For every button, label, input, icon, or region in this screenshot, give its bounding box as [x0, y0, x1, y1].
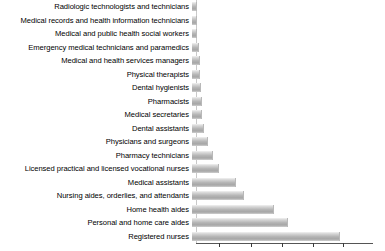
bar[interactable]: [192, 56, 200, 65]
axis-tick: [313, 243, 314, 247]
bar[interactable]: [192, 97, 202, 106]
category-label: Physicians and surgeons: [0, 137, 192, 146]
category-label: Medical and public health social workers: [0, 29, 192, 38]
bar[interactable]: [192, 164, 219, 173]
bar-cell: [192, 81, 385, 95]
bar-cell: [192, 135, 385, 149]
category-label: Medical records and health information t…: [0, 16, 192, 25]
axis-tick: [219, 243, 220, 247]
chart-row: Dental assistants: [0, 122, 385, 136]
bar[interactable]: [192, 29, 197, 38]
bar-cell: [192, 27, 385, 41]
chart-row: Medical assistants: [0, 176, 385, 190]
horizontal-bar-chart: Radiologic technologists and technicians…: [0, 0, 385, 251]
chart-row: Medical records and health information t…: [0, 14, 385, 28]
bar[interactable]: [192, 218, 288, 227]
chart-row: Licensed practical and licensed vocation…: [0, 162, 385, 176]
bar-cell: [192, 230, 385, 244]
bar-cell: [192, 122, 385, 136]
bar-rows-container: Radiologic technologists and technicians…: [0, 0, 385, 243]
chart-row: Medical and public health social workers: [0, 27, 385, 41]
category-label: Pharmacists: [0, 97, 192, 106]
chart-row: Dental hygienists: [0, 81, 385, 95]
bar-cell: [192, 216, 385, 230]
bar-cell: [192, 203, 385, 217]
bar[interactable]: [192, 151, 213, 160]
bar-cell: [192, 189, 385, 203]
chart-row: Pharmacists: [0, 95, 385, 109]
bar-cell: [192, 0, 385, 14]
bar-cell: [192, 162, 385, 176]
chart-row: Pharmacy technicians: [0, 149, 385, 163]
category-label: Nursing aides, orderlies, and attendants: [0, 191, 192, 200]
chart-row: Home health aides: [0, 203, 385, 217]
bar[interactable]: [192, 232, 340, 241]
axis-line: [196, 243, 373, 244]
chart-row: Medical and health services managers: [0, 54, 385, 68]
chart-row: Emergency medical technicians and parame…: [0, 41, 385, 55]
axis-tick: [282, 243, 283, 247]
category-label: Medical secretaries: [0, 110, 192, 119]
axis-tick: [251, 243, 252, 247]
bar-cell: [192, 176, 385, 190]
category-label: Medical assistants: [0, 178, 192, 187]
chart-row: Registered nurses: [0, 230, 385, 244]
bar-cell: [192, 14, 385, 28]
bar-cell: [192, 108, 385, 122]
bar-cell: [192, 68, 385, 82]
category-label: Home health aides: [0, 205, 192, 214]
category-label: Medical and health services managers: [0, 56, 192, 65]
bar[interactable]: [192, 110, 202, 119]
bar-cell: [192, 41, 385, 55]
bar[interactable]: [192, 43, 199, 52]
chart-row: Medical secretaries: [0, 108, 385, 122]
category-label: Dental hygienists: [0, 83, 192, 92]
bar-cell: [192, 54, 385, 68]
category-label: Emergency medical technicians and parame…: [0, 43, 192, 52]
category-label: Registered nurses: [0, 232, 192, 241]
bar[interactable]: [192, 83, 201, 92]
bar[interactable]: [192, 178, 236, 187]
chart-row: Personal and home care aides: [0, 216, 385, 230]
category-label: Licensed practical and licensed vocation…: [0, 164, 192, 173]
bar[interactable]: [192, 124, 204, 133]
category-label: Physical therapists: [0, 70, 192, 79]
bar[interactable]: [192, 205, 274, 214]
bar[interactable]: [192, 137, 208, 146]
bar-cell: [192, 95, 385, 109]
category-label: Personal and home care aides: [0, 218, 192, 227]
category-label: Radiologic technologists and technicians: [0, 2, 192, 11]
category-label: Pharmacy technicians: [0, 151, 192, 160]
chart-row: Physicians and surgeons: [0, 135, 385, 149]
bar[interactable]: [192, 2, 197, 11]
category-label: Dental assistants: [0, 124, 192, 133]
axis-tick: [343, 243, 344, 247]
chart-row: Radiologic technologists and technicians: [0, 0, 385, 14]
bar-cell: [192, 149, 385, 163]
bar[interactable]: [192, 16, 197, 25]
chart-row: Nursing aides, orderlies, and attendants: [0, 189, 385, 203]
chart-row: Physical therapists: [0, 68, 385, 82]
bar[interactable]: [192, 191, 244, 200]
bar[interactable]: [192, 70, 200, 79]
value-axis: [196, 243, 373, 251]
